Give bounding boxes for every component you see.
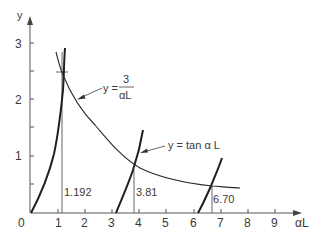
x-tick-label-8: 8 <box>244 216 251 230</box>
curve-tan-branch-2 <box>116 130 143 213</box>
y-ticks <box>30 43 34 184</box>
x-tick-label-4: 4 <box>135 216 142 230</box>
x-ticks <box>58 209 275 213</box>
root-label-1: 1.192 <box>64 186 92 198</box>
root-label-2: 3.81 <box>136 186 157 198</box>
y-axis-arrow-icon <box>27 16 33 25</box>
y-tick-label-2: 2 <box>15 93 22 107</box>
annotation-tan: y = tan α L <box>140 139 220 153</box>
y-tick-label-3: 3 <box>15 37 22 51</box>
x-tick-label-3: 3 <box>108 216 115 230</box>
x-axis-label: αL <box>295 216 309 230</box>
svg-text:3: 3 <box>123 73 129 85</box>
x-tick-label-6: 6 <box>190 216 197 230</box>
y-axis-label: y <box>17 9 23 21</box>
svg-text:y =: y = <box>103 82 118 94</box>
x-tick-label-5: 5 <box>162 216 169 230</box>
x-tick-label-1: 1 <box>55 216 62 230</box>
curve-3-over-alphaL <box>56 52 240 188</box>
chart: 0 1 2 3 4 5 6 7 8 9 αL 1 2 3 y y = 3 αL … <box>0 0 321 238</box>
y-tick-label-1: 1 <box>15 149 22 163</box>
origin-label: 0 <box>18 216 25 230</box>
arrow-icon <box>77 95 86 100</box>
curve-tan-branch-1 <box>31 48 65 213</box>
x-tick-label-2: 2 <box>81 216 88 230</box>
annotation-inverse: y = 3 αL <box>77 73 134 101</box>
svg-text:y = tan α L: y = tan α L <box>168 139 220 151</box>
arrow-icon <box>140 149 148 154</box>
root-label-3: 6.70 <box>213 193 234 205</box>
svg-text:αL: αL <box>119 89 131 101</box>
x-tick-label-7: 7 <box>217 216 224 230</box>
axes <box>30 22 296 213</box>
x-tick-label-9: 9 <box>271 216 278 230</box>
